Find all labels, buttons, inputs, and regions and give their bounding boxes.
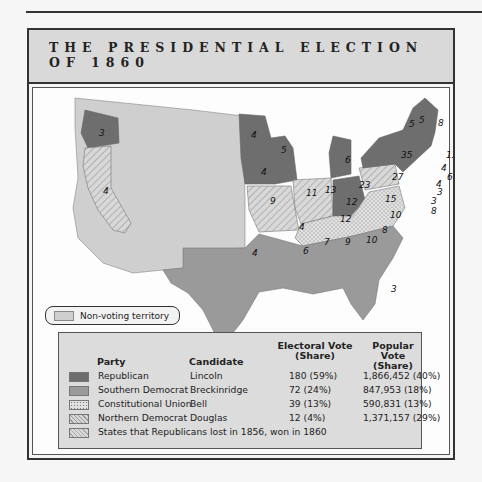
ev-virginia: 15: [385, 194, 397, 204]
ev-north-carolina: 10: [390, 210, 402, 220]
swatch-southern-democrat: [69, 386, 89, 396]
ev-vermont: 5: [409, 119, 415, 129]
electoral-vote: 12 (4%): [289, 412, 325, 423]
legend-row-republican: Republican Lincoln 180 (59%) 1,866,452 (…: [69, 370, 419, 382]
ev-arkansas: 4: [299, 222, 305, 232]
title-line-2: OF 1860: [49, 55, 423, 70]
ev-missouri: 9: [270, 196, 276, 206]
header-popular: Popular Vote (Share): [361, 341, 425, 371]
states-upper-midwest: [239, 114, 297, 184]
header-candidate: Candidate: [189, 357, 243, 367]
ev-iowa: 4: [261, 167, 267, 177]
ev-delaware-2: 3: [431, 196, 437, 206]
legend-row-republican-gains: States that Republicans lost in 1856, wo…: [69, 426, 419, 438]
candidate-name: Breckinridge: [190, 384, 248, 395]
ev-louisiana: 6: [303, 246, 309, 256]
ev-pennsylvania: 27: [392, 172, 404, 182]
non-voting-swatch: [54, 311, 74, 321]
popular-vote: 590,831 (13%): [363, 398, 432, 409]
ev-illinois: 11: [306, 188, 317, 198]
candidate-name: Douglas: [190, 412, 227, 423]
ev-new-hampshire: 5: [419, 115, 425, 125]
candidate-name: Lincoln: [190, 370, 223, 381]
ev-indiana: 13: [325, 185, 337, 195]
ev-texas: 4: [252, 248, 258, 258]
top-rule: [26, 11, 482, 13]
figure-frame: THE PRESIDENTIAL ELECTION OF 1860: [27, 28, 455, 460]
non-voting-legend: Non-voting territory: [45, 306, 180, 325]
ev-wisconsin: 5: [281, 145, 287, 155]
candidate-name: Bell: [190, 398, 207, 409]
ev-maine: 8: [438, 118, 444, 128]
legend-row-constitutional-union: Constitutional Union Bell 39 (13%) 590,8…: [69, 398, 419, 410]
ev-georgia: 10: [366, 235, 378, 245]
ev-mississippi: 7: [324, 237, 330, 247]
ev-florida: 3: [391, 284, 397, 294]
electoral-vote: 180 (59%): [289, 370, 337, 381]
header-popular-label: Popular Vote: [361, 341, 425, 361]
ev-oregon: 3: [99, 128, 105, 138]
party-name: Southern Democrat: [98, 384, 188, 395]
electoral-vote: 39 (13%): [289, 398, 331, 409]
header-electoral-sub: (Share): [277, 351, 353, 361]
ev-alabama: 9: [345, 237, 351, 247]
state-missouri: [247, 186, 299, 232]
swatch-republican: [69, 372, 89, 382]
figure-title: THE PRESIDENTIAL ELECTION OF 1860: [49, 40, 423, 70]
ev-california: 4: [103, 186, 109, 196]
header-party: Party: [97, 357, 126, 367]
ev-minnesota: 4: [251, 130, 257, 140]
legend-row-southern-democrat: Southern Democrat Breckinridge 72 (24%) …: [69, 384, 419, 396]
header-electoral: Electoral Vote (Share): [277, 341, 353, 361]
popular-vote: 847,953 (18%): [363, 384, 432, 395]
ev-delaware: 3: [437, 187, 443, 197]
gains-note: States that Republicans lost in 1856, wo…: [98, 426, 327, 437]
popular-vote: 1,866,452 (40%): [363, 370, 440, 381]
ev-maryland: 8: [431, 206, 437, 216]
swatch-constitutional-union: [69, 400, 89, 410]
ev-tennessee: 12: [340, 214, 352, 224]
results-legend: Party Candidate Electoral Vote (Share) P…: [58, 332, 422, 449]
states-northeast: [361, 98, 438, 172]
ev-connecticut: 6: [447, 172, 453, 182]
ev-massachusetts: 13: [446, 150, 453, 160]
party-name: Northern Democrat: [98, 412, 187, 423]
party-name: Constitutional Union: [98, 398, 191, 409]
non-voting-label: Non-voting territory: [80, 311, 169, 321]
popular-vote: 1,371,157 (29%): [363, 412, 440, 423]
electoral-vote: 72 (24%): [289, 384, 331, 395]
title-bar: THE PRESIDENTIAL ELECTION OF 1860: [29, 30, 453, 84]
ev-new-york: 35: [401, 150, 413, 160]
legend-row-northern-democrat: Northern Democrat Douglas 12 (4%) 1,371,…: [69, 412, 419, 424]
title-line-1: THE PRESIDENTIAL ELECTION: [49, 40, 423, 55]
ev-michigan: 6: [345, 155, 351, 165]
ev-ohio: 23: [359, 180, 371, 190]
swatch-northern-democrat: [69, 414, 89, 424]
swatch-republican-gains: [69, 428, 89, 438]
party-name: Republican: [98, 370, 149, 381]
ev-kentucky: 12: [346, 197, 358, 207]
ev-south-carolina: 8: [382, 225, 388, 235]
map-panel: 3 4 4 5 4 6 11 13 23 27 35 5 5 8 13 4 6 …: [32, 87, 450, 455]
